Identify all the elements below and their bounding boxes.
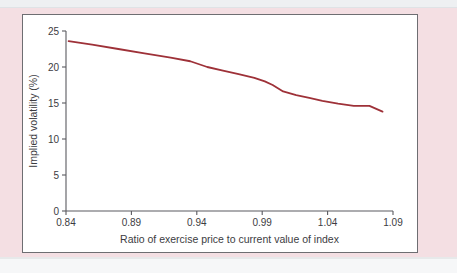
page-bottom-band — [0, 259, 457, 273]
volatility-skew-chart: 0510152025 0.840.890.940.991.041.09 Rati… — [23, 15, 417, 252]
y-tick-label: 25 — [48, 26, 60, 37]
implied-volatility-curve — [69, 41, 383, 112]
screenshot-root: 0510152025 0.840.890.940.991.041.09 Rati… — [0, 0, 457, 273]
x-tick-label: 0.84 — [56, 217, 76, 228]
x-tick-label: 0.94 — [187, 217, 207, 228]
x-tick-label: 1.09 — [383, 217, 403, 228]
x-axis-ticks: 0.840.890.940.991.041.09 — [56, 211, 403, 228]
y-tick-label: 0 — [53, 206, 59, 217]
y-axis-ticks: 0510152025 — [48, 26, 66, 217]
figure-panel: 0510152025 0.840.890.940.991.041.09 Rati… — [22, 14, 418, 253]
page-top-band — [0, 0, 457, 7]
x-tick-label: 0.89 — [122, 217, 142, 228]
x-axis-title: Ratio of exercise price to current value… — [120, 233, 340, 245]
x-tick-label: 0.99 — [252, 217, 272, 228]
x-tick-label: 1.04 — [318, 217, 338, 228]
y-tick-label: 5 — [53, 170, 59, 181]
y-tick-label: 15 — [48, 98, 60, 109]
y-tick-label: 20 — [48, 62, 60, 73]
y-axis-title: Implied volatility (%) — [27, 74, 39, 167]
y-tick-label: 10 — [48, 134, 60, 145]
page-top-rule — [0, 7, 457, 8]
